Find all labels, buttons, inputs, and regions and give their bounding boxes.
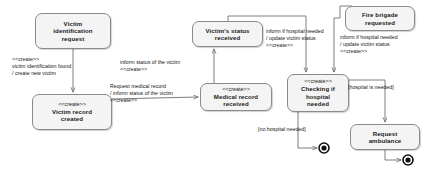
transition-label-checking-to-ambulance: [hospital is needed] <box>348 84 394 91</box>
state-label: Victim record created <box>52 108 92 123</box>
transition-label-firebrigade-to-checking: inform if hospital needed / update victi… <box>340 34 398 55</box>
state-stereotype: <<create>> <box>304 78 332 85</box>
transition-label-medical-to-status: inform status of the victim <<create>> <box>120 59 180 73</box>
state-label: Victim's status received <box>205 27 249 42</box>
transition-label-status-to-checking: inform if hospital needed / update victi… <box>266 28 324 49</box>
state-checking-if-hospital-needed[interactable]: <<create>> Checking if hospital needed <box>287 74 349 112</box>
wire-ambulance-to-final <box>385 150 401 160</box>
state-victim-identification-request[interactable]: Victim identification request <box>35 13 111 49</box>
state-stereotype: <<create>> <box>222 86 250 93</box>
state-label: Request ambulance <box>369 130 402 145</box>
state-label: Checking if hospital needed <box>301 85 335 107</box>
transition-label-checking-to-final: [no hospital needed] <box>258 126 306 133</box>
state-stereotype: <<create>> <box>58 101 86 108</box>
state-medical-record-received[interactable]: <<create>> Medical record received <box>200 83 272 111</box>
final-state-no-hospital[interactable] <box>317 141 331 155</box>
transition-label-identification-to-record: <<create>> victim identification found /… <box>12 56 71 77</box>
final-state-ambulance[interactable] <box>401 153 415 167</box>
state-request-ambulance[interactable]: Request ambulance <box>350 124 420 150</box>
state-label: Fire brigade requested <box>362 11 398 26</box>
state-victim-record-created[interactable]: <<create>> Victim record created <box>32 94 112 130</box>
state-victims-status-received[interactable]: Victim's status received <box>192 21 263 47</box>
state-fire-brigade-requested[interactable]: Fire brigade requested <box>345 6 415 31</box>
uml-state-diagram: Victim identification request <<create>>… <box>0 0 429 176</box>
state-label: Medical record received <box>214 93 258 108</box>
state-label: Victim identification request <box>53 20 92 42</box>
transition-label-record-to-medical: Request medical record / inform status o… <box>110 83 173 104</box>
